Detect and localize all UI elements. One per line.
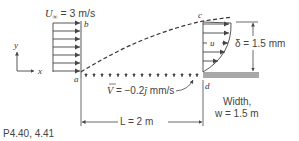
length-label: L = 2 m [120,116,153,127]
point-b-label: b [84,19,89,29]
boundary-layer-diagram: U∞ = 3 m/s b a y x c u δ = 1.5 mm [0,0,299,141]
suction-leader-line [176,80,193,91]
thickness-label-text: δ = 1.5 mm [235,38,285,49]
velocity-u-label: u [210,38,215,48]
point-a-label: a [74,74,79,84]
coordinate-axes [17,52,34,71]
width-label-line1: Width, [223,96,251,107]
y-axis-label: y [13,40,18,50]
point-c-label: c [198,10,202,20]
point-d-label: d [205,81,210,91]
uniform-velocity-profile [53,21,81,78]
suction-arrows [86,73,197,77]
width-label-line2: w = 1.5 m [214,108,259,119]
parabolic-velocity-profile [203,21,231,72]
suction-velocity-label: V = −0.2ĵ mm/s [107,85,174,96]
plate-wall [203,72,259,78]
figure-caption: P4.40, 4.41 [3,128,55,139]
x-axis-label: x [37,66,42,76]
